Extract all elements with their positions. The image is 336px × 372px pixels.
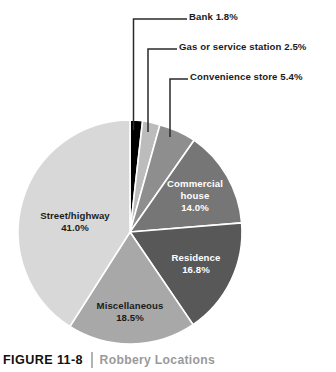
figure-number: FIGURE 11-8 (3, 353, 83, 367)
callout-label-gas-or-service-station: Gas or service station 2.5% (179, 41, 306, 53)
leader-line-bank (134, 19, 188, 130)
slice-label-street-highway-name: Street/highway (23, 210, 127, 222)
callout-label-bank: Bank 1.8% (189, 11, 238, 23)
slice-label-miscellaneous: Miscellaneous 18.5% (82, 300, 178, 324)
slice-label-street-highway: Street/highway 41.0% (23, 210, 127, 234)
caption-divider (91, 352, 93, 368)
slice-label-residence-value: 16.8% (156, 264, 236, 276)
slice-label-street-highway-value: 41.0% (23, 222, 127, 234)
leader-line-gas-or-service-station (148, 49, 177, 132)
slice-label-commercial-house-value: 14.0% (157, 202, 233, 214)
slice-label-commercial-house: Commercial house 14.0% (157, 178, 233, 213)
slice-label-residence: Residence 16.8% (156, 252, 236, 276)
figure-title: Robbery Locations (100, 353, 215, 367)
callout-label-convenience-store: Convenience store 5.4% (190, 71, 303, 83)
figure-robbery-locations: Bank 1.8% Gas or service station 2.5% Co… (0, 0, 336, 372)
slice-label-miscellaneous-value: 18.5% (82, 312, 178, 324)
slice-label-commercial-house-name-line2: house (157, 190, 233, 202)
slice-label-commercial-house-name-line1: Commercial (157, 178, 233, 190)
figure-caption: FIGURE 11-8 Robbery Locations (3, 350, 215, 370)
slice-label-miscellaneous-name: Miscellaneous (82, 300, 178, 312)
slice-label-residence-name: Residence (156, 252, 236, 264)
